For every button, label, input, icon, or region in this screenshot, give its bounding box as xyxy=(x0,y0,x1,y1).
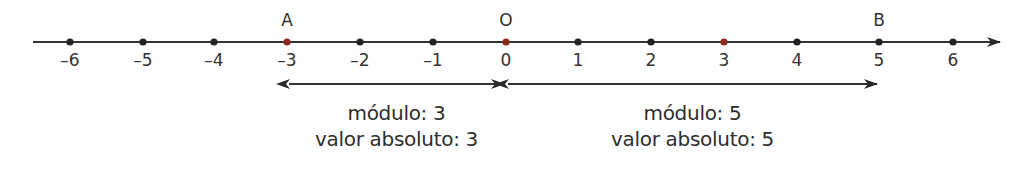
tick-dot xyxy=(875,38,882,45)
tick-label: –6 xyxy=(60,50,79,70)
tick-dot xyxy=(210,38,217,45)
tick-dot xyxy=(429,38,436,45)
tick-dot xyxy=(793,38,800,45)
tick-label: –1 xyxy=(423,50,442,70)
tick-label: 5 xyxy=(874,50,885,70)
interval-caption: módulo: 5valor absoluto: 5 xyxy=(611,100,774,152)
tick-dot xyxy=(283,38,290,45)
tick-label: 0 xyxy=(501,50,512,70)
tick-label: –2 xyxy=(350,50,369,70)
modulus-text: módulo: 5 xyxy=(611,100,774,126)
absolute-value-text: valor absoluto: 5 xyxy=(611,126,774,152)
tick-dot xyxy=(139,38,146,45)
tick-label: 4 xyxy=(792,50,803,70)
point-label-a: A xyxy=(281,10,293,30)
tick-label: 3 xyxy=(719,50,730,70)
absolute-value-text: valor absoluto: 3 xyxy=(315,126,478,152)
tick-dot xyxy=(66,38,73,45)
point-label-b: B xyxy=(873,10,885,30)
tick-label: 2 xyxy=(646,50,657,70)
tick-label: –5 xyxy=(133,50,152,70)
number-line-diagram: –6–5–4–3–2–10123456 AOB módulo: 3valor a… xyxy=(0,0,1033,171)
tick-dot xyxy=(647,38,654,45)
interval-caption: módulo: 3valor absoluto: 3 xyxy=(315,100,478,152)
tick-dot xyxy=(949,38,956,45)
tick-dot xyxy=(502,38,509,45)
modulus-text: módulo: 3 xyxy=(315,100,478,126)
tick-label: 6 xyxy=(948,50,959,70)
tick-label: 1 xyxy=(573,50,584,70)
tick-label: –4 xyxy=(204,50,223,70)
tick-label: –3 xyxy=(277,50,296,70)
tick-dot xyxy=(720,38,727,45)
point-label-o: O xyxy=(499,10,512,30)
tick-dot xyxy=(574,38,581,45)
tick-dot xyxy=(356,38,363,45)
